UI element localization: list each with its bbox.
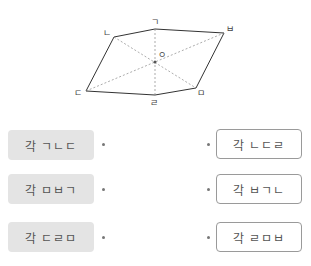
left-option-label: 각 ㄷㄹㅁ [25, 229, 78, 246]
label-giyeok: ㄱ [151, 17, 159, 27]
label-bieup: ㅂ [226, 24, 234, 34]
left-option-1[interactable]: 각 ㄱㄴㄷ [8, 130, 94, 160]
right-connector-dot-3[interactable] [207, 236, 210, 239]
hexagon-figure: ㄱ ㅂ ㄴ ㄷ ㄹ ㅁ ㅇ [0, 0, 311, 120]
left-option-label: 각 ㄱㄴㄷ [25, 137, 78, 154]
label-digeut: ㄷ [74, 88, 82, 98]
left-option-label: 각 ㅁㅂㄱ [25, 181, 78, 198]
center-point [154, 61, 157, 64]
right-option-2[interactable]: 각 ㅂㄱㄴ [216, 174, 302, 204]
left-connector-dot-3[interactable] [102, 236, 105, 239]
left-option-3[interactable]: 각 ㄷㄹㅁ [8, 222, 94, 252]
label-rieul: ㄹ [150, 98, 158, 108]
right-connector-dot-1[interactable] [207, 143, 210, 146]
left-connector-dot-1[interactable] [102, 143, 105, 146]
label-center: ㅇ [158, 50, 166, 60]
right-option-label: 각 ㄹㅁㅂ [233, 229, 286, 246]
label-mieum: ㅁ [197, 88, 205, 98]
right-option-label: 각 ㅂㄱㄴ [233, 181, 286, 198]
label-nieun: ㄴ [103, 28, 111, 38]
right-option-1[interactable]: 각 ㄴㄷㄹ [216, 129, 302, 159]
right-option-label: 각 ㄴㄷㄹ [233, 136, 286, 153]
left-connector-dot-2[interactable] [102, 188, 105, 191]
right-connector-dot-2[interactable] [207, 188, 210, 191]
left-option-2[interactable]: 각 ㅁㅂㄱ [8, 174, 94, 204]
right-option-3[interactable]: 각 ㄹㅁㅂ [216, 222, 302, 252]
